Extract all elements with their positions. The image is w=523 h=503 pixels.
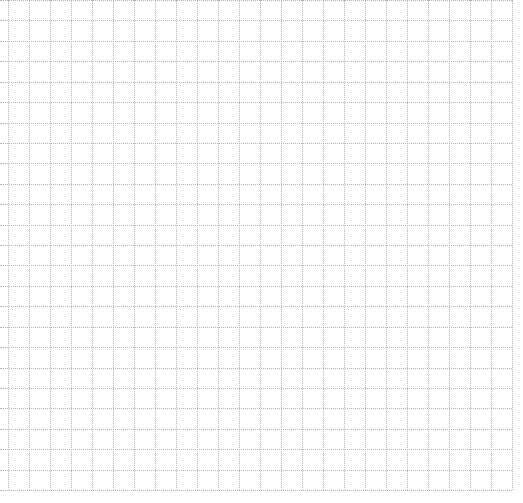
grid-horizontal-line: [0, 368, 512, 369]
grid-horizontal-line: [0, 408, 512, 409]
grid-horizontal-line: [0, 82, 512, 83]
grid-horizontal-line: [0, 225, 512, 226]
grid-horizontal-line: [0, 20, 512, 21]
grid-horizontal-line: [0, 61, 512, 62]
grid-horizontal-line: [0, 41, 512, 42]
grid-horizontal-line: [0, 449, 512, 450]
grid-horizontal-line: [0, 327, 512, 328]
grid-horizontal-line: [0, 163, 512, 164]
grid-horizontal-line: [0, 388, 512, 389]
grid-horizontal-line: [0, 347, 512, 348]
graph-paper-grid: [0, 0, 523, 503]
grid-horizontal-line: [0, 470, 512, 471]
grid-horizontal-line: [0, 184, 512, 185]
grid-horizontal-line: [0, 429, 512, 430]
grid-horizontal-line: [0, 123, 512, 124]
grid-horizontal-line: [0, 204, 512, 205]
grid-horizontal-line: [0, 286, 512, 287]
grid-horizontal-line: [0, 265, 512, 266]
grid-horizontal-line: [0, 0, 512, 1]
grid-horizontal-line: [0, 245, 512, 246]
grid-horizontal-line: [0, 102, 512, 103]
grid-horizontal-line: [0, 143, 512, 144]
grid-vertical-line: [512, 0, 513, 490]
grid-horizontal-line: [0, 306, 512, 307]
grid-horizontal-line: [0, 490, 512, 491]
